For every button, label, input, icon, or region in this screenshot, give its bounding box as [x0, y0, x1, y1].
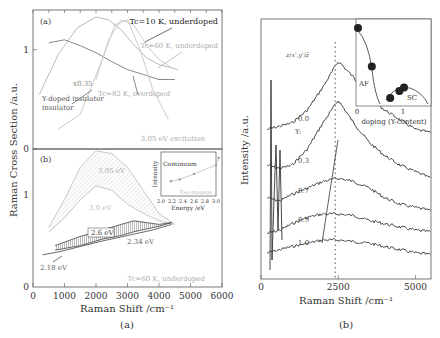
x-axis-label-a: Raman Shift /cm⁻¹ [80, 303, 174, 314]
series-label-y-0-9: 0.9 [298, 216, 309, 224]
caption-b: (b) [339, 319, 353, 330]
arrow-tc60 [158, 52, 182, 68]
arrow-tc10 [145, 28, 172, 42]
x-tick-label: 4000 [148, 291, 171, 301]
inset-phase-point [386, 94, 394, 102]
inset-x-tick: 2.0 [157, 198, 165, 204]
series-label-y-0-3: 0.3 [298, 157, 309, 165]
x-tick-label: 5000 [404, 282, 427, 292]
y-tick-label: 0 [23, 282, 29, 292]
annotation-y-doped: Y-doped insulator [41, 95, 105, 103]
x-axis-label-b: Raman Shift /cm⁻¹ [299, 295, 393, 306]
x-tick-label: 0 [258, 282, 264, 292]
annotation-tc60-b: Tc=60 K, underdoped [127, 275, 205, 283]
legend-title-y: Y: [294, 128, 301, 136]
y-tick-label: 1 [23, 45, 29, 55]
geometry-label: z(x',y')z̄ [285, 51, 310, 59]
annotation-scale: x0.35 [73, 80, 93, 88]
y-tick-label: 0 [23, 144, 29, 154]
annotation-tc10: Tc=10 K, underdoped [129, 17, 218, 26]
label-2-34ev: 2.34 eV [127, 238, 155, 246]
panel-a-top-frame [33, 10, 222, 149]
annotation-insulator: insulator [42, 104, 74, 112]
phonon-spikes [270, 80, 282, 270]
inset-x-label: doping (Y-content) [361, 118, 426, 126]
series-line-tc-10-k-underdoped [39, 17, 178, 95]
y-axis-label-a: Raman Cross Section /a.u. [8, 83, 19, 217]
label-3-05ev: 3.05 eV [98, 167, 126, 175]
x-tick-label: 2500 [327, 282, 350, 292]
inset-phase-point [400, 84, 408, 92]
label-3-0ev: 3.0 eV [89, 204, 113, 212]
annotation-excitation: 3.05 eV excitation [141, 135, 206, 143]
series-line-y-0-7 [267, 178, 430, 211]
inset-x-tick: 1 [401, 108, 405, 116]
series-label-y-1-0: 1.0 [298, 239, 309, 247]
y-tick-label: 1 [23, 190, 29, 200]
inset-phase-point [354, 24, 362, 32]
inset-label-two-magnon: Two-magnon [179, 189, 212, 196]
label-2-18ev: 2.18 eV [40, 264, 68, 272]
inset-label-af: AF [358, 80, 369, 88]
x-tick-label: 3000 [116, 291, 139, 301]
series-line-y-0-9 [267, 213, 430, 234]
inset-label-continuum: Continuum [163, 160, 197, 167]
x-tick-label: 2000 [85, 291, 108, 301]
x-tick-label: 1000 [53, 291, 76, 301]
series-line-y-1-0 [267, 239, 430, 255]
label-2-6ev: 2.6 eV [91, 229, 115, 237]
inset-x-tick: 3.0 [212, 198, 220, 204]
inset-x-tick: 0 [355, 108, 359, 116]
x-tick-label: 5000 [179, 291, 202, 301]
panel-label-a: (a) [40, 17, 51, 26]
inset-label-sc: SC [407, 94, 417, 102]
inset-phase-point [368, 63, 376, 71]
series-label-y-0-0: 0.0 [298, 115, 309, 123]
caption-a: (a) [120, 319, 134, 330]
series-line-y-0-3 [267, 101, 430, 178]
y-axis-label-b: Intensity /a.u. [239, 115, 250, 185]
panel-label-b: (b) [40, 155, 51, 164]
annotation-tc60: Tc=60 K, underdoped [140, 42, 218, 50]
inset-y-label: Intensity [151, 160, 159, 187]
series-line-y-doped-insulator-x0-35- [58, 20, 168, 129]
figure: (a)01Tc=10 K, underdopedTc=60 K, underdo… [0, 0, 440, 338]
x-tick-label: 0 [30, 291, 36, 301]
series-label-y-0-7: 0.7 [298, 187, 309, 195]
x-tick-label: 6000 [211, 291, 234, 301]
arrow-2-18ev [53, 256, 62, 262]
annotation-tc82: Tc=82 K, overdoped [98, 90, 171, 98]
inset-x-label: Energy /eV [171, 204, 205, 212]
